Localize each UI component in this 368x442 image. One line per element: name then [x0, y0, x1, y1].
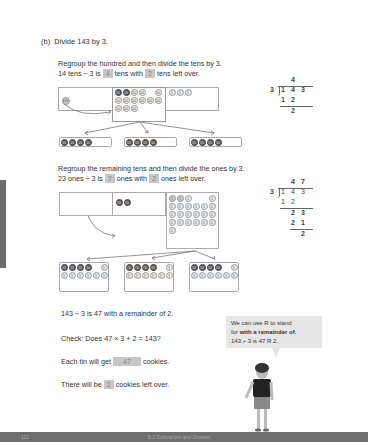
chapter-title: 5.2 Subtraction and Division: [148, 434, 210, 440]
page-number: 112: [21, 434, 29, 440]
child-character-icon: [0, 0, 368, 442]
textbook-page: (b) Divide 143 by 3. Regroup the hundred…: [0, 0, 368, 442]
page-footer: 112 5.2 Subtraction and Division: [0, 432, 368, 442]
